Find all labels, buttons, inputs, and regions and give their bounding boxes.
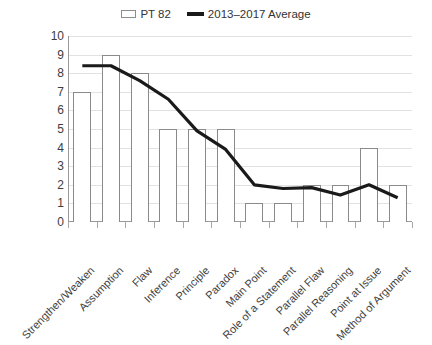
bar[interactable] bbox=[102, 55, 120, 222]
bar[interactable] bbox=[131, 73, 149, 222]
bar[interactable] bbox=[274, 203, 292, 222]
x-tick bbox=[125, 222, 126, 228]
legend-label-average: 2013–2017 Average bbox=[208, 8, 311, 20]
bar[interactable] bbox=[73, 92, 91, 222]
y-tick-label: 8 bbox=[57, 67, 64, 79]
x-tick bbox=[183, 222, 184, 228]
y-tick-label: 3 bbox=[57, 160, 64, 172]
bar-series-pt-82 bbox=[68, 36, 412, 222]
legend-item-pt-82: PT 82 bbox=[121, 8, 170, 20]
bar-swatch-icon bbox=[121, 10, 136, 18]
bar-slot bbox=[97, 36, 126, 222]
legend-label-pt-82: PT 82 bbox=[140, 8, 170, 20]
bar-slot bbox=[355, 36, 384, 222]
bar-slot bbox=[154, 36, 183, 222]
bar-slot bbox=[68, 36, 97, 222]
y-tick-label: 10 bbox=[51, 30, 64, 42]
x-tick bbox=[355, 222, 356, 228]
bar-slot bbox=[183, 36, 212, 222]
y-tick-label: 4 bbox=[57, 142, 64, 154]
bar-slot bbox=[383, 36, 412, 222]
x-tick bbox=[412, 222, 413, 228]
x-tick bbox=[383, 222, 384, 228]
bar[interactable] bbox=[389, 185, 407, 222]
x-tick bbox=[297, 222, 298, 228]
bar[interactable] bbox=[159, 129, 177, 222]
bar[interactable] bbox=[245, 203, 263, 222]
bar-slot bbox=[125, 36, 154, 222]
y-tick-label: 6 bbox=[57, 104, 64, 116]
bar-slot bbox=[297, 36, 326, 222]
x-axis-labels: Strengthen/WeakenAssumptionFlawInference… bbox=[68, 264, 412, 345]
y-axis: 109876543210 bbox=[40, 36, 64, 222]
x-axis-ticks bbox=[68, 222, 412, 228]
bar[interactable] bbox=[360, 148, 378, 222]
y-tick-label: 5 bbox=[57, 123, 64, 135]
legend-item-average: 2013–2017 Average bbox=[187, 8, 311, 20]
bar[interactable] bbox=[217, 129, 235, 222]
bar[interactable] bbox=[188, 129, 206, 222]
x-tick bbox=[97, 222, 98, 228]
bar-slot bbox=[326, 36, 355, 222]
x-tick bbox=[240, 222, 241, 228]
x-tick bbox=[269, 222, 270, 228]
chart-legend: PT 82 2013–2017 Average bbox=[0, 8, 432, 20]
plot-area bbox=[68, 36, 412, 222]
y-tick-label: 2 bbox=[57, 179, 64, 191]
y-tick-label: 9 bbox=[57, 49, 64, 61]
bar-slot bbox=[211, 36, 240, 222]
bar[interactable] bbox=[303, 185, 321, 222]
bar-slot bbox=[240, 36, 269, 222]
x-axis-label: Flaw bbox=[129, 264, 154, 289]
bar-slot bbox=[269, 36, 298, 222]
y-tick-label: 7 bbox=[57, 86, 64, 98]
bar[interactable] bbox=[332, 185, 350, 222]
x-tick bbox=[154, 222, 155, 228]
y-tick-label: 1 bbox=[57, 197, 64, 209]
y-tick-label: 0 bbox=[57, 216, 64, 228]
x-tick bbox=[68, 222, 69, 228]
x-tick bbox=[211, 222, 212, 228]
x-tick bbox=[326, 222, 327, 228]
line-swatch-icon bbox=[187, 12, 204, 16]
